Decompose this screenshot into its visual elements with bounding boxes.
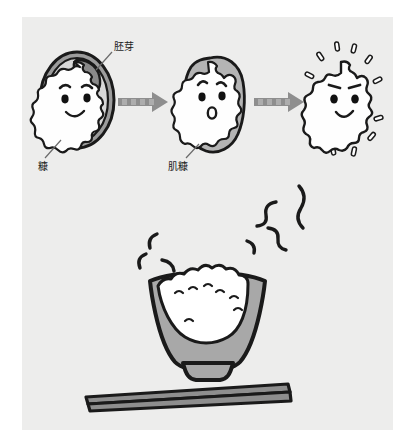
rice-endosperm-brown <box>31 62 104 152</box>
label-inner-bran: 肌糠 <box>168 160 188 172</box>
steam-stroke <box>149 234 157 248</box>
steam-group <box>139 186 304 271</box>
eye-left-icon <box>198 93 205 102</box>
arrow-stage-2-to-3 <box>254 92 304 112</box>
mouth-surprised-icon <box>208 107 216 118</box>
eye-left-icon <box>61 95 68 104</box>
sparkle-icon <box>374 115 384 121</box>
steam-stroke <box>247 241 254 253</box>
label-germ: 胚芽 <box>114 40 134 52</box>
sparkle-icon <box>367 132 376 141</box>
stage-partially-milled-rice: 肌糠 <box>168 57 244 172</box>
sparkle-icon <box>351 44 357 54</box>
rice-milling-diagram: 胚芽 糠 <box>0 0 415 446</box>
steam-stroke <box>139 254 146 268</box>
illustration-root: 胚芽 糠 <box>0 0 415 446</box>
sparkle-icon <box>316 52 324 62</box>
steam-stroke <box>257 202 276 226</box>
eye-left-icon <box>330 94 338 103</box>
eye-right-icon <box>218 92 225 101</box>
sparkle-icon <box>373 76 383 84</box>
rice-bowl <box>150 265 265 380</box>
label-bran: 糠 <box>38 160 48 172</box>
steam-stroke <box>268 228 286 250</box>
sparkle-icon <box>305 71 315 79</box>
sparkle-icon <box>364 55 373 65</box>
steam-stroke <box>298 186 304 228</box>
sparkle-icon <box>334 42 339 51</box>
stage-white-rice <box>302 42 384 157</box>
eye-right-icon <box>351 94 359 103</box>
sparkle-icon <box>351 147 357 157</box>
arrow-stage-1-to-2 <box>118 92 168 112</box>
steam-stroke <box>162 260 174 271</box>
eye-right-icon <box>83 94 90 103</box>
chopsticks-pair <box>86 384 291 411</box>
bowl-foot <box>183 363 233 380</box>
